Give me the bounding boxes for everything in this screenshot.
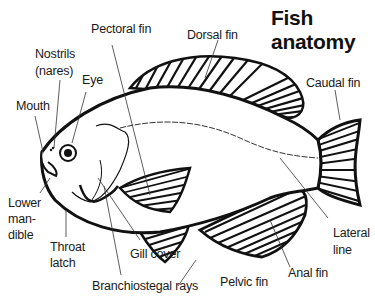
- label-lateral-line-line2: line: [333, 243, 352, 257]
- label-lateral-line-line1: Lateral: [333, 226, 370, 240]
- diagram-title-line1: Fish: [271, 7, 313, 29]
- eye-pupil: [64, 149, 72, 157]
- fish-anatomy-diagram: Fish anatomy Pectoral fin Dorsal fin Nos…: [0, 0, 375, 303]
- label-pelvic-fin: Pelvic fin: [220, 275, 268, 289]
- label-throat-latch-line2: latch: [50, 256, 75, 270]
- label-lower-mandible-line1: Lower: [8, 196, 41, 210]
- label-eye: Eye: [82, 73, 103, 87]
- label-anal-fin: Anal fin: [288, 266, 328, 280]
- label-caudal-fin: Caudal fin: [306, 76, 360, 90]
- label-gill-cover: Gill cover: [130, 247, 180, 261]
- label-nostrils-line2: (nares): [35, 64, 73, 78]
- diagram-title-line2: anatomy: [271, 31, 355, 53]
- label-branchiostegal-rays: Branchiostegal rays: [92, 279, 198, 293]
- label-dorsal-fin: Dorsal fin: [187, 28, 238, 42]
- label-lower-mandible-line3: dible: [8, 228, 33, 242]
- label-lower-mandible-line2: man-: [8, 212, 36, 226]
- label-mouth: Mouth: [16, 99, 50, 113]
- label-pectoral-fin: Pectoral fin: [91, 22, 151, 36]
- label-throat-latch-line1: Throat: [50, 240, 85, 254]
- label-nostrils-line1: Nostrils: [35, 47, 75, 61]
- caudal-fin-shape: [316, 120, 362, 205]
